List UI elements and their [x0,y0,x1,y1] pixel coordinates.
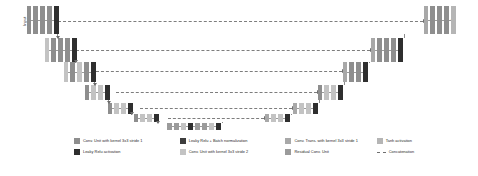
downsample-arrow-icon [93,83,97,86]
downsample-arrow-icon [56,36,60,39]
layer-block [285,114,290,122]
legend-label: Conv. Unit with kernel 3x3 stride 2 [189,149,248,155]
legend-label: Residual Conv. Unit [294,149,328,155]
skip-level-4 [116,92,317,93]
enc-level-4 [85,85,110,100]
bottleneck-level [167,123,221,130]
legend-item: Concatenation [377,149,444,155]
legend-row: Leaky Relu activationConv. Unit with ker… [74,149,444,160]
downsample-arrow-icon [130,112,134,115]
upsample-connector [344,82,345,85]
layer-block [91,62,96,82]
enc-level-3 [64,62,96,82]
legend-item: Leaky Relu activation [74,149,180,155]
dec-level-6 [265,114,290,122]
legend-item: Conv. Unit with kernel 3x3 stride 1 [74,138,180,144]
layer-block [72,38,77,62]
legend-label: Tanh activation [386,138,412,144]
upsample-connector [291,114,292,115]
dec-level-3 [343,62,368,82]
legend-item: Residual Conv. Unit [285,149,376,155]
legend-row: Conv. Unit with kernel 3x3 stride 1Leaky… [74,138,444,149]
skip-level-2 [76,50,370,51]
downsample-arrow-icon [107,101,111,104]
legend-label: Leaky Relu + Batch normalization [189,138,248,144]
legend-label: Concatenation [389,149,414,155]
enc-level-2 [45,38,77,62]
dec-level-4 [318,85,343,100]
layer-block [313,103,318,114]
legend-label: Leaky Relu activation [83,149,120,155]
downsample-arrow-icon [156,121,160,124]
layer-block [451,6,456,34]
legend-item: Conv. Unit with kernel 3x3 stride 2 [180,149,286,155]
legend-item: Tanh activation [377,138,444,144]
legend-label: Conv. Unit with kernel 3x3 stride 1 [83,138,142,144]
upsample-connector [319,100,320,103]
upsample-connector [222,122,223,123]
enc-level-1 [27,6,59,34]
legend-swatch [377,138,383,144]
layer-block [338,85,343,100]
legend-swatch [74,138,80,144]
layer-block [398,38,403,62]
dec-level-2 [371,38,403,62]
dec-level-1 [424,6,456,34]
upsample-connector [404,34,405,38]
layer-block [54,6,59,34]
concatenation-dash-icon [377,152,386,153]
skip-level-3 [96,71,342,72]
downsample-arrow-icon [74,60,78,63]
legend-label: Conv. Trans. with kernel 3x3 stride 1 [294,138,357,144]
layer-block [216,123,221,130]
legend-swatch [285,138,291,144]
dec-level-5 [293,103,318,114]
legend: Conv. Unit with kernel 3x3 stride 1Leaky… [74,138,444,160]
legend-swatch [285,149,291,155]
upsample-connector [369,62,370,63]
layer-block [363,62,368,82]
legend-item: Leaky Relu + Batch normalization [180,138,286,144]
skip-level-1 [58,21,423,22]
legend-item: Conv. Trans. with kernel 3x3 stride 1 [285,138,376,144]
skip-level-6 [168,118,264,119]
unet-architecture-diagram: Input Output Conv. Unit with kernel 3x3 … [0,0,478,176]
layer-block [105,85,110,100]
skip-level-5 [140,108,292,109]
legend-swatch [74,149,80,155]
legend-swatch [180,138,186,144]
legend-swatch [180,149,186,155]
